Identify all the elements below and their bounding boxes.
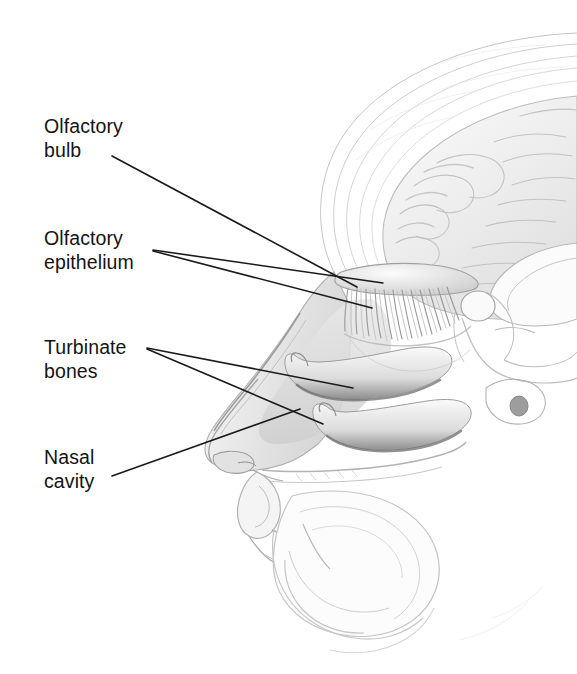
- label-turbinate-bones: Turbinate bones: [44, 336, 127, 383]
- anatomical-figure: Olfactory bulb Olfactory epithelium Turb…: [0, 0, 577, 674]
- label-nasal-cavity: Nasal cavity: [44, 446, 94, 493]
- label-olfactory-bulb: Olfactory bulb: [44, 115, 123, 162]
- label-olfactory-epithelium: Olfactory epithelium: [44, 227, 134, 274]
